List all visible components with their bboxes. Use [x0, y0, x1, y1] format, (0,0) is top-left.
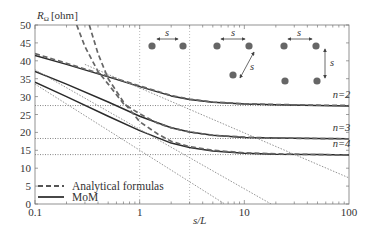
- inset-three-electrodes: s s: [213, 27, 254, 79]
- inset-geometry: s s s s s: [148, 27, 334, 85]
- y-tick-label: 30: [20, 91, 32, 103]
- y-tick-label: 25: [20, 109, 32, 121]
- y-tick-label: 20: [20, 126, 32, 138]
- curve-label: n=4: [333, 138, 351, 149]
- electrode-dot: [280, 42, 287, 49]
- y-tick-label: 5: [26, 180, 32, 192]
- axis-ticks: [35, 25, 349, 204]
- curve-annotations: n=2n=3n=4: [333, 89, 351, 149]
- y-tick-label: 50: [20, 19, 32, 31]
- curve-label: n=3: [333, 122, 351, 133]
- electrode-dot: [213, 42, 220, 49]
- spacing-label: s: [297, 27, 301, 38]
- spacing-label: s: [330, 57, 334, 68]
- series-mom-n-4: [35, 82, 349, 155]
- curve-label: n=2: [333, 89, 351, 100]
- y-tick-labels: 05101520253035404550: [20, 19, 32, 210]
- series-analytical-n-2: [35, 54, 349, 106]
- electrode-dot: [313, 77, 320, 84]
- electrode-dot: [179, 42, 186, 49]
- data-series: [35, 25, 349, 204]
- y-tick-label: 45: [20, 37, 32, 49]
- chart: 0.1110100 05101520253035404550 n=2n=3n=4…: [0, 0, 374, 231]
- legend: Analytical formulas MoM: [38, 180, 164, 203]
- electrode-dot: [245, 42, 252, 49]
- electrode-dot: [312, 42, 319, 49]
- x-tick-label: 10: [239, 206, 251, 218]
- x-tick-label: 1: [137, 206, 143, 218]
- legend-label-mom: MoM: [72, 191, 98, 203]
- inset-two-electrodes: s: [148, 27, 186, 50]
- plot-frame: [35, 25, 349, 204]
- x-axis-title: s/L: [193, 214, 206, 226]
- y-tick-label: 10: [20, 162, 32, 174]
- electrode-dot: [229, 71, 236, 78]
- series-analytical-n-3: [77, 25, 349, 139]
- spacing-label: s: [250, 61, 254, 72]
- series-mom-n-2: [35, 55, 349, 106]
- y-tick-label: 0: [26, 198, 32, 210]
- spacing-label: s: [165, 27, 169, 38]
- inset-four-electrodes: s s: [280, 27, 334, 85]
- y-tick-label: 35: [20, 73, 32, 85]
- y-tick-label: 40: [20, 55, 32, 67]
- y-tick-label: 15: [20, 144, 32, 156]
- y-axis-title: RΩ[ohm]: [36, 9, 78, 23]
- electrode-dot: [281, 77, 288, 84]
- electrode-dot: [148, 42, 155, 49]
- spacing-label: s: [231, 27, 235, 38]
- x-tick-label: 100: [341, 206, 358, 218]
- reference-lines: [35, 25, 349, 204]
